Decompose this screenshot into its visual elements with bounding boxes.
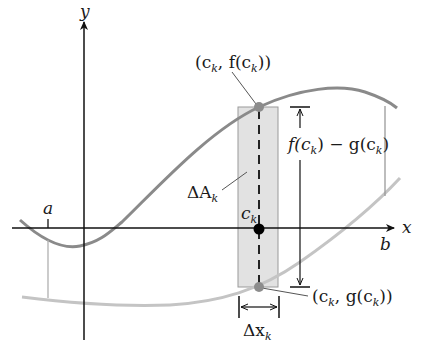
delta-x-label: Δxk [243, 320, 272, 343]
bottom-point-leader [262, 288, 308, 296]
bottom-point-g [254, 282, 264, 292]
top-point-f [254, 102, 264, 112]
y-axis-label: y [79, 1, 90, 21]
diagram-svg: y x a b ck ΔAk Δxk (ck, f(ck)) (ck, g(ck… [0, 0, 430, 357]
delta-A-label: ΔAk [187, 182, 219, 205]
a-label: a [43, 198, 53, 218]
area-between-curves-diagram: y x a b ck ΔAk Δxk (ck, f(ck)) (ck, g(ck… [0, 0, 430, 357]
bottom-point-label: (ck, g(ck)) [312, 286, 393, 309]
top-point-leader [232, 72, 256, 104]
top-point-label: (ck, f(ck)) [195, 52, 271, 75]
x-axis-label: x [402, 217, 412, 237]
curve-f [20, 88, 397, 247]
height-label: f(ck) − g(ck) [286, 134, 389, 157]
b-label: b [380, 234, 391, 254]
